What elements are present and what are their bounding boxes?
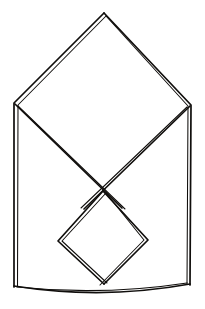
folded-napkin-drawing xyxy=(0,0,205,309)
canvas-background xyxy=(0,0,205,309)
sketch-canvas xyxy=(0,0,205,309)
